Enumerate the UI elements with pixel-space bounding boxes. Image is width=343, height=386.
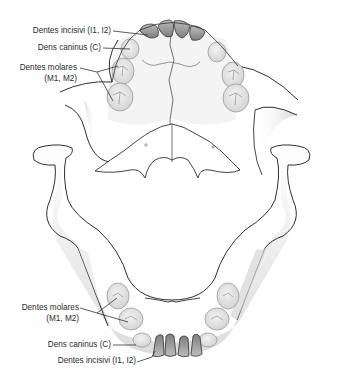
label-lower-incisors: Dentes incisivi (I1, I2) [58,356,136,366]
label-lower-molars: Dentes molares [22,303,79,313]
lower-jaw [33,145,310,357]
diagram-canvas [0,0,343,386]
dental-anatomy-diagram: Dentes incisivi (I1, I2) Dens caninus (C… [0,0,343,386]
upper-canine-right [208,42,226,62]
lower-molars [107,283,239,330]
lower-canine-right [199,333,217,347]
label-upper-molars: Dentes molares [20,63,77,73]
label-upper-canine: Dens caninus (C) [38,43,101,53]
label-upper-incisors: Dentes incisivi (I1, I2) [33,26,111,36]
label-upper-molars-codes: (M1, M2) [44,74,77,84]
label-lower-canine: Dens caninus (C) [48,340,111,350]
label-lower-molars-codes: (M1, M2) [46,314,79,324]
